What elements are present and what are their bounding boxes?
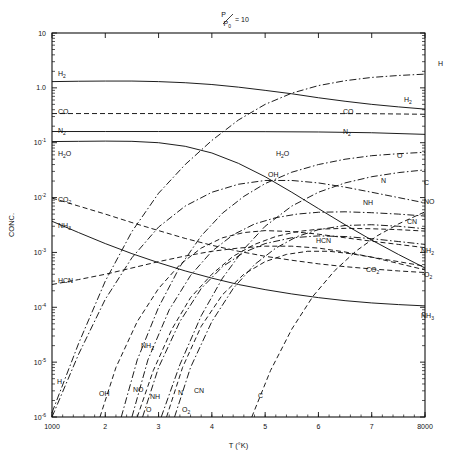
x-tick-labels: 10002345678000 [44, 423, 433, 430]
x-tick-label: 1000 [44, 423, 60, 430]
curve-label: N [381, 177, 386, 184]
curve-label: CO [343, 108, 354, 115]
x-tick-label: 2 [103, 423, 107, 430]
y-tick-label: 10 [38, 30, 46, 37]
y-axis-title: CONC. [7, 213, 16, 237]
x-tick-label: 6 [316, 423, 320, 430]
species-curves [52, 74, 425, 417]
curve-label: O [397, 152, 403, 159]
curve-oh [52, 180, 425, 417]
y-tick-label: 1.0 [36, 84, 46, 91]
curve-label: CO2 [58, 196, 72, 205]
curve-label: H [57, 378, 62, 385]
x-tick-label: 7 [370, 423, 374, 430]
curve-cn [175, 225, 425, 417]
curve-co [52, 114, 425, 115]
curve-c [252, 212, 425, 417]
curve-label: CN [407, 218, 417, 225]
curve-label: C [424, 179, 429, 186]
x-tick-label: 8000 [417, 423, 433, 430]
title-numerator: P [221, 11, 226, 18]
curve-h2 [52, 81, 425, 109]
curve-label: O2 [182, 406, 190, 415]
curve-label: H [438, 60, 443, 67]
curve-nh [143, 236, 425, 417]
curve-h [52, 74, 425, 413]
curve-label: N2 [58, 127, 66, 136]
y-tick-label: 10-2 [34, 192, 46, 201]
curve-label: H2O [58, 150, 72, 159]
curve-label: H2O [276, 150, 290, 159]
curve-o [121, 152, 425, 417]
x-tick-label: 3 [157, 423, 161, 430]
curve-label: HCN [58, 277, 73, 284]
curve-label: NH3 [58, 222, 71, 231]
y-tick-labels: 101.010-110-210-310-410-510-6 [34, 30, 46, 421]
curve-label: NO [424, 198, 435, 205]
curve-n2 [52, 132, 425, 135]
y-tick-label: 10-6 [34, 412, 46, 421]
title-value: = 10 [235, 16, 249, 23]
curve-label: NH2 [141, 342, 154, 351]
y-tick-label: 10-3 [34, 247, 46, 256]
curve-label: CN [194, 387, 204, 394]
curve-label: CO [58, 108, 69, 115]
curve-co2 [52, 198, 425, 272]
curve-n [161, 170, 425, 417]
x-tick-label: 4 [210, 423, 214, 430]
curve-label: OH [268, 171, 279, 178]
x-tick-label: 5 [263, 423, 267, 430]
curve-label: N2 [343, 128, 351, 137]
curve-label: NO [133, 386, 144, 393]
y-tick-label: 10-4 [34, 302, 46, 311]
curve-label: H2 [58, 70, 66, 79]
concentration-vs-temperature-plot: 10002345678000 101.010-110-210-310-410-5… [0, 0, 454, 464]
curve-label: NH [363, 199, 373, 206]
curve-label: O [146, 406, 152, 413]
y-tick-label: 10-5 [34, 357, 46, 366]
chart-figure: 10002345678000 101.010-110-210-310-410-5… [0, 0, 454, 464]
curve-label: C [258, 392, 263, 399]
axis-titles: T (°K)CONC.PP0= 10 [7, 11, 249, 450]
x-axis-title: T (°K) [229, 441, 249, 450]
title-denominator: P0 [224, 20, 232, 29]
curve-label: CO2 [366, 266, 380, 275]
curve-label: H2 [404, 96, 412, 105]
curve-label: N [178, 389, 183, 396]
y-tick-label: 10-1 [34, 137, 46, 146]
curve-label: NH [150, 393, 160, 400]
curve-label: OH [99, 390, 110, 397]
curve-label: HCN [316, 237, 331, 244]
